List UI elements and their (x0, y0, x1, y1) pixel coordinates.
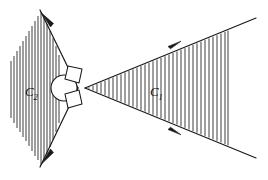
right-cone-label-subscript: 1 (159, 92, 163, 102)
prism-facet-lower (65, 90, 82, 108)
optics-figure: C 1 (0, 0, 268, 180)
figure-canvas: C 1 (0, 0, 268, 180)
